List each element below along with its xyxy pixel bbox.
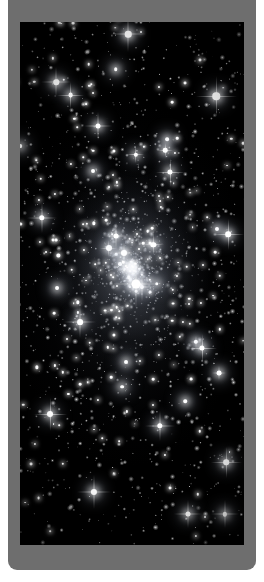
star: [184, 82, 187, 85]
star: [70, 163, 72, 165]
star: [142, 242, 145, 245]
star-diffraction-spike: [127, 146, 144, 163]
bright-star: [157, 423, 162, 428]
star: [93, 429, 95, 431]
star: [131, 269, 133, 271]
starfield-fine-layer: [20, 22, 244, 545]
star: [230, 137, 232, 139]
figure-caption: It could be infinite!: [15, 0, 249, 1]
star-diffraction-spike: [156, 158, 185, 187]
star: [217, 370, 222, 375]
star: [115, 181, 117, 183]
star: [77, 311, 79, 313]
star: [134, 263, 136, 265]
star: [39, 241, 41, 243]
star: [178, 335, 180, 337]
star-diffraction-spike: [211, 500, 239, 528]
star: [92, 149, 95, 152]
star: [199, 58, 202, 61]
star: [131, 266, 134, 269]
star: [222, 512, 226, 516]
star: [193, 340, 197, 344]
star: [54, 364, 56, 366]
star: [113, 472, 114, 473]
star: [133, 269, 136, 272]
star: [55, 286, 59, 290]
star: [36, 159, 37, 160]
star: [77, 126, 79, 128]
star: [131, 265, 133, 267]
star: [118, 317, 120, 319]
bright-star: [47, 411, 53, 417]
bright-star: [199, 345, 204, 350]
cluster-core-glow: [20, 22, 244, 545]
bright-star: [39, 215, 44, 220]
star: [22, 403, 25, 406]
star: [113, 333, 116, 336]
star: [52, 239, 55, 242]
star: [131, 242, 133, 244]
star-diffraction-spike: [212, 366, 226, 380]
star: [88, 85, 90, 87]
star: [53, 311, 56, 314]
star: [182, 321, 184, 323]
star: [151, 242, 156, 247]
star: [165, 137, 169, 141]
star: [73, 117, 75, 119]
star: [131, 269, 133, 271]
star: [104, 219, 107, 222]
star-diffraction-spike: [190, 336, 202, 348]
star: [95, 263, 97, 265]
star: [171, 288, 174, 291]
star: [152, 378, 155, 381]
star: [155, 282, 158, 285]
star: [58, 424, 60, 426]
star: [133, 266, 135, 268]
star: [130, 266, 133, 269]
star: [134, 271, 136, 273]
star: [149, 241, 152, 244]
star: [91, 83, 93, 85]
star: [129, 270, 131, 272]
star-diffraction-spike: [111, 259, 161, 309]
star: [123, 250, 126, 253]
star: [242, 142, 244, 145]
star-diffraction-spike: [57, 82, 84, 109]
star-diffraction-spike: [188, 334, 217, 363]
star: [202, 264, 204, 266]
star: [130, 261, 133, 264]
star: [190, 378, 193, 381]
star: [110, 309, 112, 311]
star: [101, 437, 103, 439]
star: [29, 463, 32, 466]
star-diffraction-spike: [84, 112, 112, 140]
star: [124, 269, 126, 271]
star: [141, 273, 143, 275]
star: [37, 496, 40, 499]
star: [124, 268, 126, 270]
star: [107, 206, 109, 208]
star: [159, 257, 161, 259]
star: [129, 278, 131, 280]
star: [112, 174, 114, 176]
star: [115, 317, 117, 319]
star: [69, 235, 71, 237]
star: [92, 92, 94, 94]
bright-star: [223, 459, 229, 465]
star: [138, 248, 140, 250]
image-vignette: [20, 22, 244, 545]
star: [88, 63, 91, 66]
star: [133, 208, 135, 210]
star: [123, 270, 125, 272]
star: [174, 152, 176, 154]
star-diffraction-spike: [145, 411, 175, 441]
star: [83, 249, 85, 251]
star: [183, 399, 187, 403]
star: [52, 57, 54, 59]
star: [142, 146, 144, 148]
star: [204, 516, 206, 518]
star: [45, 251, 47, 253]
star: [33, 443, 35, 445]
star: [171, 101, 174, 104]
star-diffraction-spike: [64, 306, 96, 338]
